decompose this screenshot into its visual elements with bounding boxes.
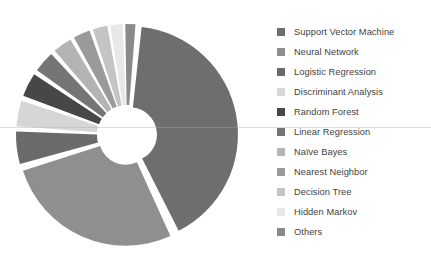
legend-item[interactable]: Hidden Markov <box>277 202 431 222</box>
pie-chart-area <box>0 0 265 255</box>
legend-item-label: Discriminant Analysis <box>294 87 383 98</box>
legend-swatch-icon <box>277 148 285 156</box>
legend-item[interactable]: Discriminant Analysis <box>277 82 431 102</box>
pie-slice[interactable] <box>125 24 135 105</box>
legend-item[interactable]: Support Vector Machine <box>277 22 431 42</box>
legend-item[interactable]: Logistic Regression <box>277 62 431 82</box>
legend-item-label: Neural Network <box>294 47 359 58</box>
legend-item-label: Naïve Bayes <box>294 147 347 158</box>
legend-item-label: Hidden Markov <box>294 207 357 218</box>
legend-swatch-icon <box>277 108 285 116</box>
legend-item[interactable]: Nearest Neighbor <box>277 162 431 182</box>
legend-swatch-icon <box>277 228 285 236</box>
legend-item[interactable]: Random Forest <box>277 102 431 122</box>
legend-item[interactable]: Linear Regression <box>277 122 431 142</box>
legend-item-label: Nearest Neighbor <box>294 167 368 178</box>
legend-item-label: Random Forest <box>294 107 359 118</box>
legend-swatch-icon <box>277 128 285 136</box>
legend-item-label: Support Vector Machine <box>294 27 394 38</box>
legend-item-label: Decision Tree <box>294 187 352 198</box>
legend-item[interactable]: Others <box>277 222 431 242</box>
legend-item[interactable]: Decision Tree <box>277 182 431 202</box>
legend-swatch-icon <box>277 208 285 216</box>
legend-item-label: Linear Regression <box>294 127 370 138</box>
legend-item[interactable]: Naïve Bayes <box>277 142 431 162</box>
legend-swatch-icon <box>277 88 285 96</box>
chart-legend: Support Vector MachineNeural NetworkLogi… <box>277 22 431 242</box>
legend-swatch-icon <box>277 188 285 196</box>
donut-chart <box>0 0 265 255</box>
legend-swatch-icon <box>277 68 285 76</box>
legend-item-label: Logistic Regression <box>294 67 376 78</box>
legend-item-label: Others <box>294 227 322 238</box>
legend-swatch-icon <box>277 48 285 56</box>
chart-page: Support Vector MachineNeural NetworkLogi… <box>0 0 431 255</box>
legend-item[interactable]: Neural Network <box>277 42 431 62</box>
legend-swatch-icon <box>277 168 285 176</box>
legend-swatch-icon <box>277 28 285 36</box>
